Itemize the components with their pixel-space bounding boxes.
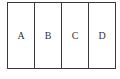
cell-c: C xyxy=(62,3,89,68)
cell-label: A xyxy=(17,30,24,41)
partitioned-rectangle: A B C D xyxy=(7,2,116,69)
cell-b: B xyxy=(35,3,62,68)
cell-a: A xyxy=(8,3,35,68)
cell-label: B xyxy=(45,30,52,41)
cell-label: D xyxy=(98,30,105,41)
cell-d: D xyxy=(89,3,115,68)
cell-label: C xyxy=(72,30,79,41)
